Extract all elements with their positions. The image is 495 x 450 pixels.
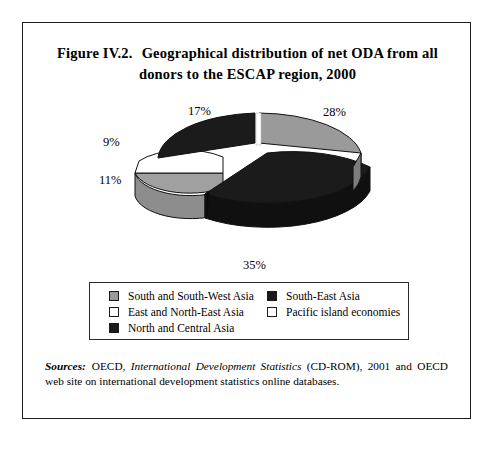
slice-gap-divider xyxy=(256,113,261,145)
figure-number: Figure IV.2. xyxy=(57,45,133,61)
legend-swatch-icon-south-east-asia xyxy=(267,291,277,301)
legend-label-east-and-north-east-asia: East and North-East Asia xyxy=(128,304,244,320)
title-line-1: Figure IV.2.Geographical distribution of… xyxy=(43,43,452,64)
legend-column-right: South-East Asia Pacific island economies xyxy=(267,288,400,320)
pie-chart-graphic xyxy=(23,95,470,277)
legend-label-south-and-south-west-asia: South and South-West Asia xyxy=(128,288,254,304)
data-label-north-and-central-asia: 17% xyxy=(188,104,211,119)
legend-label-pacific-island-economies: Pacific island economies xyxy=(286,304,400,320)
data-label-east-and-north-east-asia: 11% xyxy=(99,173,121,188)
legend-swatch-icon-north-and-central-asia xyxy=(109,323,119,333)
legend-item-east-and-north-east-asia[interactable]: East and North-East Asia xyxy=(109,304,254,320)
legend-swatch-icon-pacific-island-economies xyxy=(267,307,277,317)
legend-column-left: South and South-West Asia East and North… xyxy=(109,288,254,336)
slice-top-north-and-central-asia xyxy=(158,113,255,158)
figure-container: Figure IV.2.Geographical distribution of… xyxy=(22,22,471,419)
legend-item-north-and-central-asia[interactable]: North and Central Asia xyxy=(109,320,254,336)
chart-legend: South and South-West Asia East and North… xyxy=(89,282,409,340)
pie-chart: 28% 17% 9% 11% 35% xyxy=(23,95,470,277)
sources-publication-title: International Development Statistics xyxy=(131,360,302,372)
data-label-south-east-asia: 35% xyxy=(243,258,266,273)
data-label-pacific-island-economies: 9% xyxy=(103,135,120,150)
legend-swatch-icon-south-and-south-west-asia xyxy=(109,291,119,301)
data-label-south-and-south-west-asia: 28% xyxy=(323,105,346,120)
sources-text-part-1: OECD, xyxy=(92,360,126,372)
legend-item-pacific-island-economies[interactable]: Pacific island economies xyxy=(267,304,400,320)
legend-swatch-icon-east-and-north-east-asia xyxy=(109,307,119,317)
slice-side-south-east-asia-edge xyxy=(205,191,209,218)
title-text-line-1: Geographical distribution of net ODA fro… xyxy=(142,45,438,61)
title-line-2: donors to the ESCAP region, 2000 xyxy=(43,64,452,85)
legend-label-south-east-asia: South-East Asia xyxy=(286,288,360,304)
sources-heading: Sources: xyxy=(45,360,86,372)
legend-item-south-east-asia[interactable]: South-East Asia xyxy=(267,288,400,304)
legend-label-north-and-central-asia: North and Central Asia xyxy=(128,320,234,336)
figure-title: Figure IV.2.Geographical distribution of… xyxy=(43,43,452,85)
legend-item-south-and-south-west-asia[interactable]: South and South-West Asia xyxy=(109,288,254,304)
sources-note: Sources:OECD, International Development … xyxy=(45,359,448,389)
